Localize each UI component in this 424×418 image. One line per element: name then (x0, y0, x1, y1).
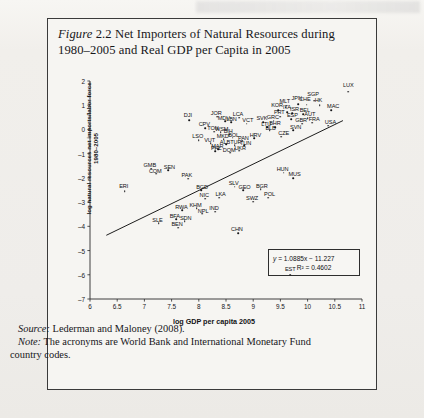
point-label-chn: CHN (231, 226, 243, 232)
point-label-hrv: HRV (250, 132, 261, 138)
point-label-bgd: BGD (196, 184, 208, 190)
y-tick-label: –5 (56, 247, 85, 254)
point-label-nic: NIC (200, 192, 209, 198)
note-label: Note: (18, 336, 41, 347)
point-label-est: EST (285, 266, 296, 272)
point-label-hk: HK (315, 97, 323, 103)
point-label-usa: USA (325, 119, 336, 125)
x-tick-label: 9 (251, 303, 255, 310)
y-tick-label: 2 (56, 78, 85, 85)
source-label: Source: (18, 323, 50, 334)
point-label-kor: KOR (271, 102, 283, 108)
data-point (348, 91, 350, 93)
point-label-sdn: SDN (180, 215, 192, 221)
data-point (205, 127, 207, 129)
x-tick-label: 9.5 (276, 303, 285, 310)
data-point (290, 118, 292, 120)
point-label-slv: SLV (229, 180, 239, 186)
point-label-dji: DJI (184, 112, 192, 118)
data-point (293, 178, 295, 180)
data-point (124, 191, 126, 193)
point-label-bfa: BFA (170, 213, 180, 219)
x-tick-label: 6 (88, 303, 92, 310)
figure-number: 2.2 (96, 27, 112, 41)
regression-equation-box: y = 1.0885x − 11.227 R² = 0.4602 (268, 249, 360, 276)
data-point (327, 125, 329, 127)
data-point (298, 103, 300, 105)
x-tick-label: 8 (197, 303, 201, 310)
note-text: The acronyms are World Bank and Internat… (10, 336, 311, 360)
point-label-pol: POL (264, 191, 275, 197)
point-label-bgr: BGR (256, 183, 268, 189)
point-label-lka: LKA (215, 191, 225, 197)
figure-label: Figure (58, 27, 92, 41)
data-point (198, 139, 200, 141)
point-label-lux: LUX (343, 82, 354, 88)
point-label-dom: DOM (223, 147, 236, 153)
y-tick-label: –2 (56, 174, 85, 181)
data-point (238, 117, 240, 119)
y-tick-label: 0 (56, 126, 85, 133)
x-tick-label: 11 (359, 303, 366, 310)
x-tick-label: 6.5 (113, 303, 122, 310)
x-tick-label: 8.5 (222, 303, 231, 310)
y-tick-label: –1 (56, 150, 85, 157)
data-point (330, 109, 332, 111)
point-label-svn: SVN (290, 124, 301, 130)
data-point (319, 104, 321, 106)
y-tick-label: –4 (56, 223, 85, 230)
scatter-plot: log natural resources net imports/labor … (56, 71, 372, 333)
point-label-sle: SLE (152, 217, 162, 223)
point-label-gbr: GBR (295, 117, 307, 123)
x-tick-label: 7 (143, 303, 147, 310)
data-point (188, 119, 190, 121)
point-label-lbn: LBN (226, 116, 237, 122)
point-label-phl: PHL (211, 145, 222, 151)
point-label-vut: VUT (204, 137, 215, 143)
point-label-ukr: UKR (234, 145, 246, 151)
y-tick-label: –7 (56, 296, 85, 303)
y-tick-label: 1 (56, 102, 85, 109)
point-label-ind: IND (209, 205, 218, 211)
data-point (237, 232, 239, 234)
y-tick-label: –6 (56, 271, 85, 278)
point-label-vct: VCT (242, 117, 253, 123)
point-label-blb: BLB (265, 125, 275, 131)
point-label-geo: GEO (238, 184, 250, 190)
point-label-sen: SEN (164, 164, 175, 170)
point-label-isr: ISR (290, 106, 299, 112)
point-label-swz: SWZ (246, 195, 258, 201)
point-label-hun: HUN (277, 166, 289, 172)
point-label-fra: FRA (309, 116, 320, 122)
x-tick-label: 10.5 (329, 303, 341, 310)
point-label-cze: CZE (278, 130, 289, 136)
data-point (306, 104, 308, 106)
point-label-mac: MAC (327, 103, 339, 109)
point-label-jpn: JPN (292, 95, 302, 101)
figure-title-line1: Net Importers of Natural Resources durin… (115, 27, 335, 41)
point-label-rwa: RWA (175, 204, 187, 210)
x-tick-label: 7.5 (167, 303, 176, 310)
data-point (311, 122, 313, 124)
point-label-ben: BEN (171, 221, 182, 227)
equation-line2: R² = 0.4602 (297, 264, 332, 271)
data-point (289, 274, 291, 276)
point-label-eri: ERI (119, 183, 128, 189)
point-label-mus: MUS (288, 171, 300, 177)
data-point (301, 123, 303, 125)
figure-footer: Source: Lederman and Maloney (2008). Not… (10, 322, 324, 362)
data-point (280, 116, 282, 118)
figure-title: Figure 2.2 Net Importers of Natural Reso… (58, 27, 370, 58)
figure-title-line2: 1980–2005 and Real GDP per Capita in 200… (58, 43, 291, 57)
point-label-npl: NPL (198, 208, 209, 214)
point-label-pak: PAK (182, 172, 192, 178)
running-head-faded (196, 1, 420, 13)
x-tick-label: 10 (304, 303, 311, 310)
equation-line1: = 1.0885x − 11.227 (276, 255, 334, 262)
point-label-com: COM (149, 168, 162, 174)
point-label-lso: LSO (192, 133, 203, 139)
scanned-page: Figure 2.2 Net Importers of Natural Reso… (0, 0, 424, 418)
source-text: Lederman and Maloney (2008). (53, 323, 185, 334)
y-tick-label: –3 (56, 199, 85, 206)
data-point (214, 211, 216, 213)
